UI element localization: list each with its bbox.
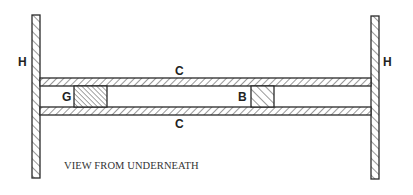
label-bottom-rail: C: [175, 117, 184, 131]
label-top-rail: C: [175, 64, 184, 78]
right-wall-h: [371, 16, 379, 179]
caption: VIEW FROM UNDERNEATH: [64, 160, 199, 171]
block-b: [251, 86, 274, 107]
label-left-wall: H: [18, 55, 27, 69]
label-right-wall: H: [383, 55, 392, 69]
left-wall-h: [32, 15, 40, 178]
top-rail-c: [40, 78, 371, 86]
mechanical-diagram: H H C C G B VIEW FROM UNDERNEATH: [0, 0, 413, 195]
bottom-rail-c: [40, 107, 371, 115]
block-g: [74, 86, 107, 107]
label-block-g: G: [62, 90, 71, 104]
label-block-b: B: [238, 90, 247, 104]
